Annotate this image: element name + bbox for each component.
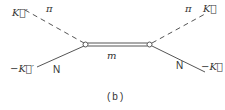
bottom-right-momentum-label: −K⃗ — [201, 62, 223, 72]
propagator-mass-label: m — [107, 51, 116, 61]
top-left-pion-label: π — [46, 4, 53, 14]
top-left-momentum-label: K⃗′ — [12, 8, 28, 18]
figure-caption: (b) — [107, 92, 125, 102]
incoming-nucleon-line — [37, 46, 84, 67]
bottom-left-momentum-label: −K⃗′ — [10, 64, 34, 74]
incoming-pion-line — [25, 10, 84, 43]
bottom-left-nucleon-label: N — [53, 65, 60, 75]
left-vertex — [83, 42, 88, 47]
top-right-pion-label: π — [185, 4, 192, 14]
top-right-momentum-label: K⃗ — [203, 4, 216, 14]
right-vertex — [147, 42, 152, 47]
bottom-right-nucleon-label: N — [176, 61, 183, 71]
outgoing-pion-line — [152, 14, 205, 43]
